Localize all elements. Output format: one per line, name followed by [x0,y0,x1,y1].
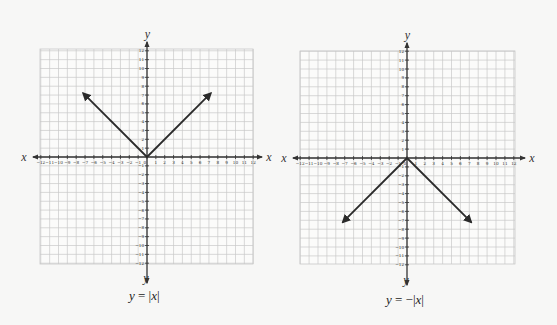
svg-text:10: 10 [139,66,145,71]
svg-text:−12: −12 [36,160,45,165]
svg-text:11: 11 [242,160,248,165]
svg-text:10: 10 [493,161,499,166]
svg-text:−12: −12 [296,161,305,166]
svg-text:−12: −12 [395,262,404,267]
svg-text:11: 11 [139,57,145,62]
svg-text:12: 12 [139,48,145,53]
svg-text:7: 7 [402,93,405,98]
svg-text:−7: −7 [342,161,349,166]
y-axis-label-bottom: y [142,271,149,285]
svg-text:4: 4 [142,119,145,124]
svg-text:10: 10 [399,67,405,72]
svg-text:−11: −11 [45,160,54,165]
svg-text:−5: −5 [138,199,145,204]
svg-text:−9: −9 [398,236,405,241]
svg-text:−4: −4 [398,191,405,196]
caption-bar: | [421,292,424,307]
x-axis-label-left: x [280,151,287,165]
caption-neg-abs-x: y = −|x| [386,292,424,308]
y-axis-label-bottom: y [402,273,409,287]
graph-abs-x: −12−11−10−9−8−7−6−5−4−3−2−10123456789101… [20,27,272,285]
svg-text:3: 3 [402,129,405,134]
svg-text:−8: −8 [73,160,80,165]
svg-text:−7: −7 [398,218,405,223]
svg-text:−4: −4 [368,161,375,166]
svg-text:−3: −3 [398,182,405,187]
svg-text:−3: −3 [377,161,384,166]
svg-text:−2: −2 [398,173,405,178]
svg-text:5: 5 [402,111,405,116]
svg-text:6: 6 [199,160,202,165]
svg-text:−6: −6 [91,160,98,165]
svg-text:−8: −8 [333,161,340,166]
y-axis-label-top: y [144,27,151,41]
svg-text:4: 4 [181,160,184,165]
svg-text:−4: −4 [138,190,145,195]
svg-text:−7: −7 [82,160,89,165]
svg-text:−2: −2 [386,161,393,166]
svg-text:9: 9 [402,75,405,80]
svg-text:8: 8 [477,161,480,166]
svg-text:5: 5 [190,160,193,165]
svg-text:−3: −3 [138,181,145,186]
svg-text:9: 9 [486,161,489,166]
svg-text:8: 8 [402,84,405,89]
svg-text:−12: −12 [135,261,144,266]
svg-text:6: 6 [459,161,462,166]
caption-equals: = −| [392,292,416,307]
svg-text:−9: −9 [324,161,331,166]
svg-text:2: 2 [402,138,405,143]
svg-text:11: 11 [502,161,508,166]
caption-bar: | [157,288,160,303]
svg-text:5: 5 [142,110,145,115]
svg-text:−6: −6 [398,209,405,214]
svg-text:−9: −9 [138,234,145,239]
svg-text:7: 7 [468,161,471,166]
svg-text:11: 11 [399,58,405,63]
svg-text:−10: −10 [54,160,63,165]
svg-text:−11: −11 [305,161,314,166]
svg-text:3: 3 [432,161,435,166]
svg-text:12: 12 [251,160,257,165]
svg-text:1: 1 [142,146,145,151]
caption-abs-x: y = |x| [129,288,160,304]
x-axis-label-left: x [20,150,27,164]
svg-text:3: 3 [172,160,175,165]
svg-text:−5: −5 [398,200,405,205]
svg-text:7: 7 [208,160,211,165]
svg-text:8: 8 [142,84,145,89]
svg-text:−5: −5 [359,161,366,166]
svg-text:−5: −5 [100,160,107,165]
svg-text:−3: −3 [117,160,124,165]
svg-text:−10: −10 [314,161,323,166]
svg-text:−10: −10 [395,245,404,250]
svg-text:10: 10 [233,160,239,165]
caption-equals: = | [135,288,151,303]
svg-text:9: 9 [142,75,145,80]
graph-neg-abs-x: −12−11−10−9−8−7−6−5−4−3−2−10123456789101… [280,28,535,287]
svg-text:2: 2 [423,161,426,166]
svg-text:4: 4 [441,161,444,166]
graph-canvas: −12−11−10−9−8−7−6−5−4−3−2−10123456789101… [0,0,557,325]
svg-text:−11: −11 [135,252,144,257]
svg-text:−6: −6 [138,208,145,213]
y-axis-label-top: y [404,28,411,42]
svg-text:−2: −2 [138,172,145,177]
svg-text:−9: −9 [64,160,71,165]
svg-text:−4: −4 [109,160,116,165]
svg-text:6: 6 [402,102,405,107]
svg-text:3: 3 [142,128,145,133]
svg-text:−8: −8 [138,225,145,230]
svg-text:8: 8 [216,160,219,165]
svg-text:12: 12 [511,161,517,166]
svg-text:−1: −1 [138,163,145,168]
svg-text:4: 4 [402,120,405,125]
svg-text:1: 1 [155,160,158,165]
svg-text:7: 7 [142,93,145,98]
svg-text:5: 5 [450,161,453,166]
svg-text:9: 9 [225,160,228,165]
svg-text:−10: −10 [135,243,144,248]
x-axis-label-right: x [528,151,535,165]
svg-text:2: 2 [163,160,166,165]
svg-text:−7: −7 [138,216,145,221]
